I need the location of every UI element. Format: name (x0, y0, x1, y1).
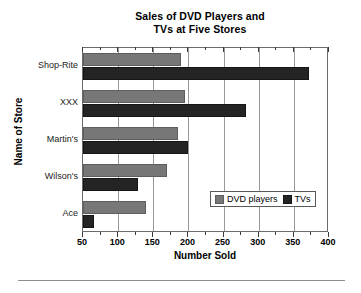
bar-shop-rite-dvd-players (83, 53, 181, 66)
bar-ace-tvs (83, 215, 94, 228)
x-tick-label-250: 250 (206, 237, 240, 247)
axis-tick (187, 47, 188, 52)
axis-tick (100, 47, 101, 50)
axis-tick (135, 232, 136, 235)
axis-tick (170, 232, 171, 235)
x-tick-label-100: 100 (100, 237, 134, 247)
y-tick-label-ace: Ace (6, 208, 78, 218)
axis-tick (205, 47, 206, 50)
axis-tick (240, 47, 241, 50)
y-tick-label-shop-rite: Shop-Rite (6, 60, 78, 70)
bar-shop-rite-tvs (83, 67, 309, 80)
chart-title: Sales of DVD Players and TVs at Five Sto… (60, 10, 340, 36)
legend-entry-dvd-players: DVD players (215, 194, 278, 204)
axis-tick (223, 47, 224, 52)
axis-tick (258, 47, 259, 52)
axis-tick (240, 232, 241, 235)
axis-tick (275, 232, 276, 235)
legend-entry-tvs: TVs (283, 194, 311, 204)
x-axis-title: Number Sold (82, 250, 328, 261)
axis-tick (170, 47, 171, 50)
x-tick-label-150: 150 (135, 237, 169, 247)
chart-legend: DVD playersTVs (210, 191, 316, 207)
legend-label: TVs (295, 194, 311, 204)
bar-wilson-s-tvs (83, 178, 138, 191)
axis-tick (152, 47, 153, 52)
bar-xxx-dvd-players (83, 90, 185, 103)
bar-martin-s-tvs (83, 141, 188, 154)
x-tick-label-50: 50 (65, 237, 99, 247)
axis-tick (310, 47, 311, 50)
axis-tick (293, 47, 294, 52)
legend-swatch-icon (215, 195, 224, 204)
axis-tick (135, 47, 136, 50)
y-axis-tick-labels: Shop-RiteXXXMartin'sWilson'sAce (4, 47, 78, 232)
axis-tick (100, 232, 101, 235)
axis-tick (205, 232, 206, 235)
x-tick-label-200: 200 (170, 237, 204, 247)
bar-martin-s-dvd-players (83, 127, 178, 140)
axis-tick (117, 47, 118, 52)
y-tick-label-martin-s: Martin's (6, 134, 78, 144)
chart-figure: Sales of DVD Players and TVs at Five Sto… (0, 0, 361, 293)
axis-tick (82, 47, 83, 52)
axis-tick (275, 47, 276, 50)
axis-tick (328, 47, 329, 52)
chart-title-line-2: TVs at Five Stores (60, 23, 340, 36)
bar-xxx-tvs (83, 104, 246, 117)
bar-wilson-s-dvd-players (83, 164, 167, 177)
x-tick-label-400: 400 (311, 237, 345, 247)
legend-label: DVD players (227, 194, 278, 204)
x-tick-label-300: 300 (241, 237, 275, 247)
chart-title-line-1: Sales of DVD Players and (135, 10, 265, 22)
y-tick-label-xxx: XXX (6, 97, 78, 107)
axis-tick (310, 232, 311, 235)
bar-ace-dvd-players (83, 201, 146, 214)
footer-divider (18, 280, 345, 281)
legend-swatch-icon (283, 195, 292, 204)
x-tick-label-350: 350 (276, 237, 310, 247)
y-tick-label-wilson-s: Wilson's (6, 171, 78, 181)
